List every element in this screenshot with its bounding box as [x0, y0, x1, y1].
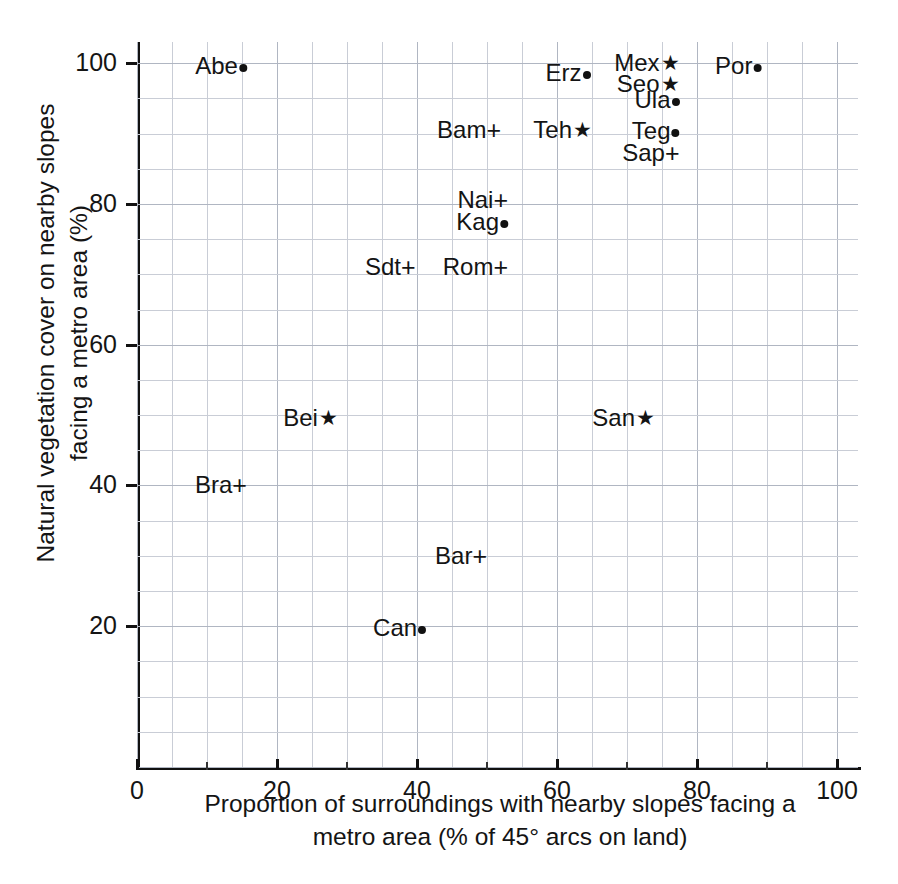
data-point[interactable]: Bar+	[435, 543, 487, 568]
marker-plus-icon: +	[232, 473, 247, 498]
gridline-horizontal	[137, 310, 858, 311]
gridline-vertical	[697, 42, 698, 767]
marker-star-icon: ★	[319, 407, 338, 428]
marker-plus-icon: +	[486, 118, 501, 143]
gridline-horizontal	[137, 661, 858, 662]
x-tick-minor	[766, 762, 768, 770]
marker-dot-icon	[672, 98, 680, 106]
gridline-vertical	[347, 42, 348, 767]
x-tick	[276, 759, 279, 770]
data-point[interactable]: Can	[373, 616, 426, 640]
data-point[interactable]: Teh★	[533, 118, 592, 142]
x-tick	[696, 759, 699, 770]
marker-dot-icon	[500, 220, 508, 228]
gridline-vertical	[802, 42, 803, 767]
y-tick-label: 100	[55, 50, 117, 75]
gridline-horizontal	[137, 732, 858, 733]
y-tick-label: 20	[55, 613, 117, 638]
data-point-label: Can	[373, 614, 417, 641]
data-point-label: Por	[715, 52, 752, 79]
data-point[interactable]: Bam+	[437, 118, 501, 143]
data-point-label: Kag	[456, 208, 499, 235]
data-point-label: Abe	[195, 52, 238, 79]
marker-star-icon: ★	[636, 407, 655, 428]
x-tick-label: 20	[263, 778, 291, 803]
x-tick-minor	[486, 762, 488, 770]
data-point-label: Sap	[622, 138, 665, 165]
data-point-label: San	[592, 404, 635, 431]
data-point[interactable]: Abe	[195, 54, 247, 78]
gridline-horizontal	[137, 380, 858, 381]
data-point[interactable]: San★	[592, 406, 655, 430]
gridline-vertical	[767, 42, 768, 767]
marker-plus-icon: +	[401, 255, 416, 280]
y-tick	[126, 484, 137, 487]
data-point-label: Bra	[195, 471, 232, 498]
marker-dot-icon	[753, 64, 761, 72]
gridline-horizontal	[137, 556, 858, 557]
data-point[interactable]: Bra+	[195, 473, 247, 498]
y-tick	[126, 62, 137, 65]
marker-star-icon: ★	[661, 52, 680, 73]
y-tick-label: 80	[55, 191, 117, 216]
data-point[interactable]: Rom+	[443, 255, 508, 280]
gridline-vertical	[487, 42, 488, 767]
gridline-vertical	[277, 42, 278, 767]
gridline-vertical	[557, 42, 558, 767]
gridline-horizontal	[137, 697, 858, 698]
gridline-vertical	[837, 42, 838, 767]
marker-dot-icon	[239, 64, 247, 72]
marker-star-icon: ★	[573, 119, 592, 140]
gridline-horizontal	[137, 626, 858, 627]
x-tick-label: 0	[130, 778, 144, 803]
marker-dot-icon	[672, 129, 680, 137]
x-tick-minor	[206, 762, 208, 770]
data-point[interactable]: Bei★	[283, 406, 338, 430]
gridline-horizontal	[137, 98, 858, 99]
gridline-horizontal	[137, 239, 858, 240]
gridline-vertical	[382, 42, 383, 767]
y-tick-label: 60	[55, 332, 117, 357]
x-axis-title: Proportion of surroundings with nearby s…	[120, 787, 880, 853]
data-point-label: Ula	[634, 86, 670, 113]
data-point[interactable]: Sdt+	[365, 255, 416, 280]
data-point[interactable]: Ula	[634, 88, 679, 112]
x-axis-line	[137, 767, 861, 770]
y-tick	[126, 344, 137, 347]
gridline-vertical	[522, 42, 523, 767]
data-point[interactable]: Sap+	[622, 140, 679, 165]
y-tick	[126, 203, 137, 206]
x-tick	[836, 759, 839, 770]
gridline-vertical	[172, 42, 173, 767]
gridline-vertical	[452, 42, 453, 767]
x-axis-title-line2: metro area (% of 45° arcs on land)	[313, 823, 688, 850]
data-point-label: Bar	[435, 541, 472, 568]
plot-area: AbeErzMex★PorSeo★UlaBam+Teh★TegSap+Nai+K…	[137, 42, 858, 767]
data-point-label: Erz	[546, 59, 582, 86]
y-tick-label: 40	[55, 472, 117, 497]
marker-plus-icon: +	[493, 255, 508, 280]
data-point-label: Sdt	[365, 253, 401, 280]
chart-page: Natural vegetation cover on nearby slope…	[0, 0, 898, 884]
gridline-horizontal	[137, 415, 858, 416]
x-tick-label: 40	[403, 778, 431, 803]
data-point[interactable]: Por	[715, 54, 761, 78]
x-tick	[556, 759, 559, 770]
gridline-horizontal	[137, 591, 858, 592]
data-point[interactable]: Kag	[456, 210, 508, 234]
gridline-vertical	[207, 42, 208, 767]
data-point-label: Bei	[283, 404, 318, 431]
gridline-vertical	[732, 42, 733, 767]
data-point[interactable]: Erz	[546, 61, 591, 85]
marker-plus-icon: +	[665, 140, 680, 165]
gridlines	[137, 42, 858, 767]
gridline-vertical	[137, 42, 138, 767]
x-tick-label: 80	[683, 778, 711, 803]
x-tick	[416, 759, 419, 770]
data-point-label: Rom	[443, 253, 494, 280]
x-tick-label: 60	[543, 778, 571, 803]
gridline-horizontal	[137, 521, 858, 522]
x-tick-label: 100	[816, 778, 858, 803]
marker-dot-icon	[583, 71, 591, 79]
marker-plus-icon: +	[472, 543, 487, 568]
